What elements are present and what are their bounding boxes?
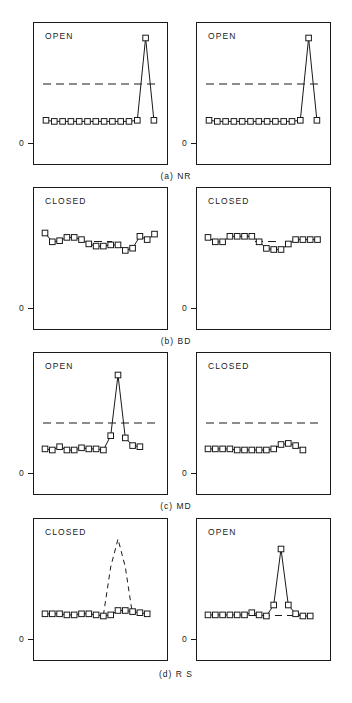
y-axis-zero-label-a-right: 0 — [182, 139, 187, 148]
row-caption-a: (a) NR — [0, 172, 352, 181]
plot-area-b-right: CLOSED — [196, 187, 331, 330]
plot-svg-a-right — [197, 23, 330, 164]
plot-area-d-right: OPEN — [196, 518, 331, 661]
data-markers-a-right — [206, 35, 320, 124]
panel-d-left: CLOSED — [33, 518, 168, 661]
row-caption-c: (c) MD — [0, 502, 352, 511]
data-line-a-left — [46, 38, 154, 121]
y-axis-zero-label-d-right: 0 — [182, 635, 187, 644]
panel-c-left: OPEN — [33, 352, 168, 495]
data-line-a-right — [209, 38, 317, 121]
y-axis-zero-label-b-right: 0 — [182, 304, 187, 313]
plot-area-a-left: OPEN — [33, 22, 168, 165]
row-caption-b: (b) BD — [0, 337, 352, 346]
plot-area-d-left: CLOSED — [33, 518, 168, 661]
figure-panel-grid: 0 0 OPEN OPEN — [0, 0, 352, 703]
reference-dashed-peak-d-left — [103, 539, 132, 615]
panel-a-right: OPEN — [196, 22, 331, 165]
y-axis-zero-label-a-left: 0 — [19, 139, 24, 148]
y-axis-zero-label-c-left: 0 — [19, 469, 24, 478]
data-markers-a-left — [43, 35, 157, 124]
plot-svg-a-left — [34, 23, 167, 164]
panel-b-right: CLOSED — [196, 187, 331, 330]
plot-svg-d-left — [34, 519, 167, 660]
y-axis-zero-label-c-right: 0 — [182, 469, 187, 478]
plot-area-b-left: CLOSED — [33, 187, 168, 330]
panel-c-right: CLOSED — [196, 352, 331, 495]
plot-svg-b-left — [34, 188, 167, 329]
panel-b-left: CLOSED — [33, 187, 168, 330]
plot-svg-b-right — [197, 188, 330, 329]
plot-svg-d-right — [197, 519, 330, 660]
plot-svg-c-left — [34, 353, 167, 494]
data-markers-b-right — [205, 234, 320, 253]
data-markers-c-right — [205, 441, 306, 453]
data-markers-c-left — [42, 372, 143, 453]
row-caption-d: (d) R S — [0, 670, 352, 679]
plot-svg-c-right — [197, 353, 330, 494]
y-axis-zero-label-d-left: 0 — [19, 635, 24, 644]
data-line-d-right — [208, 549, 310, 616]
data-markers-d-left — [42, 608, 150, 619]
y-axis-zero-label-b-left: 0 — [19, 304, 24, 313]
data-markers-d-right — [205, 546, 313, 619]
panel-a-left: OPEN — [33, 22, 168, 165]
plot-area-a-right: OPEN — [196, 22, 331, 165]
plot-area-c-left: OPEN — [33, 352, 168, 495]
panel-d-right: OPEN — [196, 518, 331, 661]
plot-area-c-right: CLOSED — [196, 352, 331, 495]
